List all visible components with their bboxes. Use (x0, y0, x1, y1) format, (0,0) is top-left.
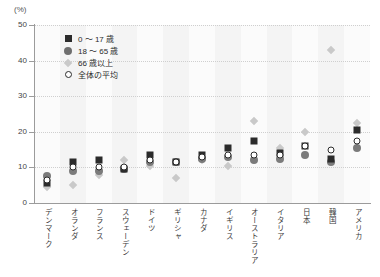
data-point (301, 151, 309, 159)
data-point (69, 164, 76, 171)
circle-filled-marker-icon (62, 47, 74, 55)
x-tick-label: ドイツ (146, 208, 155, 232)
data-point (43, 176, 50, 183)
x-tick-label: イタリア (275, 208, 284, 240)
y-tick-mark (29, 132, 34, 133)
plot-band (215, 25, 241, 203)
x-tick-label: オランダ (68, 208, 77, 240)
y-tick-label: 20 (4, 127, 27, 136)
gridline (34, 132, 370, 133)
x-tick-label: フランス (94, 208, 103, 240)
y-tick-mark (29, 96, 34, 97)
legend-item-label: 18 ～ 65 歳 (78, 45, 118, 56)
gridline (34, 167, 370, 168)
data-point (224, 151, 231, 158)
legend-item-label: 0 ～ 17 歳 (78, 33, 114, 44)
x-tick-label: イギリス (224, 208, 233, 240)
data-point (328, 146, 335, 153)
chart-legend: 0 ～ 17 歳 18 ～ 65 歳 66 歳以上 全体の平均 (62, 33, 118, 81)
x-tick-label: オーストラリア (249, 208, 258, 264)
gridline (34, 25, 370, 26)
gridline (34, 96, 370, 97)
data-point (353, 144, 361, 152)
square-marker-icon (62, 35, 74, 42)
legend-item-label: 全体の平均 (78, 69, 118, 80)
y-tick-label: 50 (4, 20, 27, 29)
y-tick-label: 40 (4, 56, 27, 65)
legend-item: 0 ～ 17 歳 (62, 33, 118, 44)
x-tick-label: スウェーデン (120, 208, 129, 256)
legend-item: 66 歳以上 (62, 57, 118, 68)
x-tick-label: デンマーク (43, 208, 52, 248)
data-point (354, 137, 361, 144)
chart-container: (%) 01020304050 デンマークオランダフランススウェーデンドイツギリ… (0, 0, 380, 277)
y-tick-mark (29, 25, 34, 26)
data-point (224, 144, 231, 151)
data-point (147, 157, 154, 164)
data-point (95, 157, 102, 164)
x-tick-label: 日本 (301, 208, 310, 224)
circle-open-marker-icon (62, 71, 74, 78)
data-point (95, 164, 102, 171)
x-axis-line (34, 203, 371, 204)
y-tick-label: 30 (4, 91, 27, 100)
x-tick-label: アメリカ (353, 208, 362, 240)
legend-item: 全体の平均 (62, 69, 118, 80)
data-point (250, 137, 257, 144)
data-point (328, 155, 335, 162)
y-tick-mark (29, 61, 34, 62)
data-point (354, 127, 361, 134)
data-point (199, 153, 206, 160)
y-tick-mark (29, 167, 34, 168)
x-tick-label: ギリシャ (172, 208, 181, 240)
y-tick-mark (29, 203, 34, 204)
legend-item: 18 ～ 65 歳 (62, 45, 118, 56)
data-point (173, 159, 180, 166)
data-point (250, 151, 257, 158)
data-point (121, 164, 128, 171)
y-axis-line (34, 24, 35, 204)
plot-band (267, 25, 293, 203)
legend-item-label: 66 歳以上 (78, 57, 113, 68)
data-point (302, 143, 309, 150)
y-axis-unit-label: (%) (14, 5, 26, 14)
diamond-marker-icon (62, 60, 74, 66)
x-tick-label: カナダ (198, 208, 207, 232)
data-point (276, 151, 283, 158)
y-tick-label: 0 (4, 198, 27, 207)
x-tick-label: 韓国 (327, 208, 336, 224)
y-tick-label: 10 (4, 162, 27, 171)
